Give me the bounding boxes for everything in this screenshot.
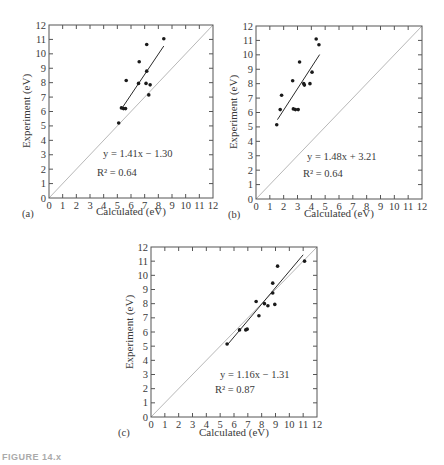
y-tick-label: 7 bbox=[248, 93, 253, 104]
y-tick-label: 12 bbox=[138, 242, 149, 253]
y-tick-label: 3 bbox=[248, 150, 253, 161]
y-tick-label: 1 bbox=[248, 179, 253, 190]
x-tick-label: 9 bbox=[169, 200, 174, 211]
x-tick-label: 11 bbox=[298, 419, 308, 430]
data-point bbox=[117, 121, 121, 125]
x-tick-label: 3 bbox=[87, 200, 92, 211]
y-tick-label: 5 bbox=[143, 341, 148, 352]
y-tick-label: 2 bbox=[143, 383, 148, 394]
data-point bbox=[162, 37, 166, 41]
panel-a: 01234567891011120123456789101112y = 1.41… bbox=[20, 20, 218, 221]
fit-line bbox=[227, 255, 303, 345]
y-tick-label: 6 bbox=[41, 106, 46, 117]
x-tick-label: 11 bbox=[194, 200, 204, 211]
data-point bbox=[148, 83, 152, 87]
y-tick-label: 11 bbox=[243, 35, 253, 46]
x-axis-label: Calculated (eV) bbox=[199, 426, 269, 439]
fit-equation: y = 1.48x + 3.21 bbox=[307, 151, 377, 162]
data-point bbox=[278, 108, 282, 112]
y-axis-label: Experiment (eV) bbox=[20, 74, 33, 149]
data-point bbox=[137, 82, 141, 86]
data-point bbox=[137, 60, 141, 64]
y-tick-label: 7 bbox=[143, 312, 148, 323]
x-tick-label: 10 bbox=[284, 419, 295, 430]
x-tick-label: 12 bbox=[208, 200, 219, 211]
x-tick-label: 1 bbox=[162, 419, 167, 430]
data-point bbox=[124, 79, 128, 83]
y-tick-label: 11 bbox=[138, 256, 148, 267]
data-point bbox=[263, 302, 267, 306]
y-tick-label: 6 bbox=[143, 327, 148, 338]
x-tick-label: 10 bbox=[180, 200, 191, 211]
x-tick-label: 2 bbox=[281, 201, 286, 212]
y-tick-label: 8 bbox=[41, 77, 46, 88]
y-tick-label: 4 bbox=[248, 136, 254, 147]
figure: 01234567891011120123456789101112y = 1.41… bbox=[0, 0, 444, 465]
data-point bbox=[314, 37, 318, 41]
r-squared-label: R² = 0.87 bbox=[215, 384, 255, 395]
y-tick-label: 0 bbox=[41, 193, 46, 204]
data-point bbox=[317, 43, 321, 47]
x-tick-label: 9 bbox=[273, 419, 278, 430]
y-tick-label: 1 bbox=[143, 397, 148, 408]
fit-equation: y = 1.41x − 1.30 bbox=[103, 148, 173, 159]
x-axis-label: Calculated (eV) bbox=[96, 205, 166, 218]
y-tick-label: 9 bbox=[248, 64, 253, 75]
x-tick-label: 2 bbox=[74, 200, 79, 211]
y-tick-label: 11 bbox=[36, 34, 46, 45]
data-point bbox=[225, 342, 229, 346]
figure-caption: FIGURE 14.x bbox=[2, 452, 62, 462]
y-tick-label: 12 bbox=[243, 21, 254, 32]
data-point bbox=[273, 303, 277, 307]
data-point bbox=[147, 93, 151, 97]
r-squared-label: R² = 0.64 bbox=[97, 167, 137, 178]
data-point bbox=[298, 60, 302, 64]
y-tick-label: 4 bbox=[41, 135, 47, 146]
data-point bbox=[144, 82, 148, 86]
data-point bbox=[296, 108, 300, 112]
y-axis-label: Experiment (eV) bbox=[227, 75, 240, 150]
x-tick-label: 0 bbox=[148, 419, 153, 430]
x-tick-label: 2 bbox=[176, 419, 181, 430]
y-tick-label: 8 bbox=[248, 78, 253, 89]
y-axis-label: Experiment (eV) bbox=[123, 295, 136, 370]
y-tick-label: 0 bbox=[248, 194, 253, 205]
panel-label: (c) bbox=[118, 427, 130, 439]
y-tick-label: 3 bbox=[143, 369, 148, 380]
y-tick-label: 3 bbox=[41, 149, 46, 160]
r-squared-label: R² = 0.64 bbox=[303, 168, 343, 179]
x-axis-label: Calculated (eV) bbox=[304, 207, 374, 220]
data-point bbox=[238, 328, 242, 332]
fit-equation: y = 1.16x − 1.31 bbox=[220, 369, 290, 380]
panel-label: (b) bbox=[228, 209, 241, 221]
x-tick-label: 12 bbox=[417, 201, 428, 212]
data-point bbox=[254, 300, 258, 304]
x-tick-label: 0 bbox=[253, 201, 258, 212]
y-tick-label: 4 bbox=[143, 355, 149, 366]
data-point bbox=[257, 314, 261, 318]
data-point bbox=[145, 43, 149, 47]
data-point bbox=[275, 123, 279, 127]
y-tick-label: 5 bbox=[41, 120, 46, 131]
panel-b: 01234567891011120123456789101112y = 1.48… bbox=[227, 21, 427, 222]
x-tick-label: 12 bbox=[312, 419, 323, 430]
data-point bbox=[266, 304, 270, 308]
data-point bbox=[291, 79, 295, 83]
y-tick-label: 9 bbox=[143, 284, 148, 295]
y-tick-label: 2 bbox=[41, 164, 46, 175]
data-point bbox=[310, 70, 314, 74]
x-tick-label: 3 bbox=[190, 419, 195, 430]
y-tick-label: 10 bbox=[36, 48, 47, 59]
data-point bbox=[303, 259, 307, 263]
y-tick-label: 10 bbox=[138, 270, 149, 281]
y-tick-label: 10 bbox=[243, 49, 254, 60]
y-tick-label: 8 bbox=[143, 298, 148, 309]
x-tick-label: 1 bbox=[267, 201, 272, 212]
data-point bbox=[245, 327, 249, 331]
data-point bbox=[271, 291, 275, 295]
y-tick-label: 6 bbox=[248, 107, 253, 118]
y-tick-label: 0 bbox=[143, 412, 148, 423]
panel-c: 01234567891011120123456789101112y = 1.16… bbox=[118, 242, 322, 440]
y-tick-label: 7 bbox=[41, 92, 46, 103]
y-tick-label: 12 bbox=[36, 20, 47, 31]
